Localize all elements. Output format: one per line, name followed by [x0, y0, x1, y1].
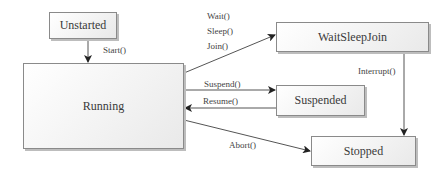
label-join: Join(): [207, 42, 228, 51]
label-wait: Wait(): [207, 12, 230, 21]
state-label: WaitSleepJoin: [318, 30, 387, 45]
label-start: Start(): [103, 46, 126, 55]
state-unstarted: Unstarted: [49, 12, 117, 39]
state-label: Unstarted: [60, 18, 107, 33]
label-sleep: Sleep(): [207, 27, 233, 36]
label-resume: Resume(): [203, 97, 238, 106]
state-stopped: Stopped: [311, 136, 416, 166]
edge-wait-sleep-join: [184, 35, 275, 73]
state-suspended: Suspended: [276, 85, 365, 116]
label-abort: Abort(): [229, 141, 256, 150]
state-running: Running: [23, 63, 184, 149]
state-waitsleepjoin: WaitSleepJoin: [276, 22, 429, 52]
label-suspend: Suspend(): [204, 80, 241, 89]
state-label: Running: [83, 99, 124, 114]
label-interrupt: Interrupt(): [358, 67, 395, 76]
state-label: Stopped: [344, 144, 383, 159]
state-label: Suspended: [295, 93, 347, 108]
